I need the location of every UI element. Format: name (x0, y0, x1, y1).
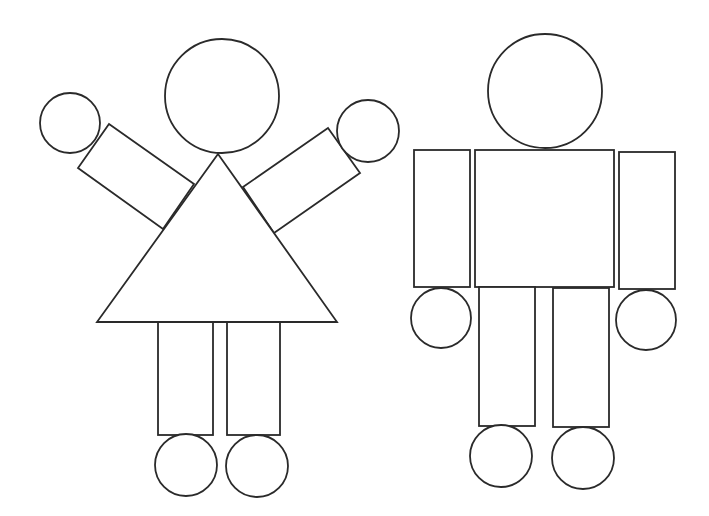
girl-figure (40, 39, 399, 497)
boy-left-foot (470, 425, 532, 487)
figures-svg (0, 0, 709, 516)
girl-left-leg (158, 322, 213, 435)
boy-body (475, 150, 614, 287)
girl-left-hand (40, 93, 100, 153)
boy-right-arm (619, 152, 675, 289)
girl-head (165, 39, 279, 153)
boy-right-leg (553, 288, 609, 427)
boy-figure (411, 34, 676, 489)
girl-left-foot (155, 434, 217, 496)
boy-left-leg (479, 287, 535, 426)
girl-right-leg (227, 322, 280, 435)
girl-right-foot (226, 435, 288, 497)
boy-head (488, 34, 602, 148)
girl-right-hand (337, 100, 399, 162)
boy-left-arm (414, 150, 470, 287)
boy-right-foot (552, 427, 614, 489)
boy-left-hand (411, 288, 471, 348)
illustration-canvas (0, 0, 709, 516)
boy-right-hand (616, 290, 676, 350)
